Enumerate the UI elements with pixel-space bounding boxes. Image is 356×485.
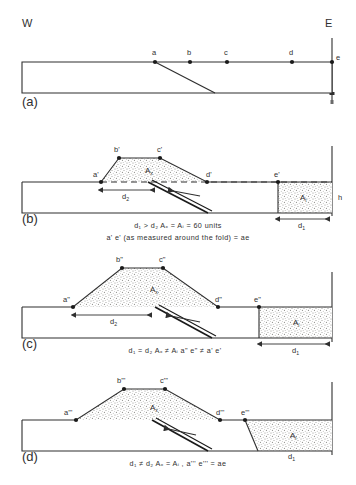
panel-tag-b: (b) (22, 211, 38, 226)
point-b-prime (117, 156, 121, 160)
point-d-prime (205, 180, 209, 184)
layer-block-a (22, 62, 332, 93)
point-label-c-tprime: c''' (160, 376, 169, 385)
point-a-tprime (74, 418, 78, 422)
point-c-tprime (163, 387, 167, 391)
point-b (188, 60, 192, 64)
point-label-d: d (289, 48, 293, 57)
point-label-a-tprime: a''' (64, 408, 73, 417)
point-d-dprime (216, 305, 220, 309)
caption-c-line1: d₁ = d₂ Aₓ ≠ Aᵢ a" e" ≠ a' e' (129, 346, 222, 355)
point-a-prime (99, 180, 103, 184)
point-c-dprime (161, 266, 165, 270)
point-label-d-prime: d' (206, 170, 212, 179)
point-b-tprime (122, 387, 126, 391)
point-c (225, 60, 229, 64)
compass-east-label: E (325, 17, 332, 29)
point-e (330, 60, 334, 64)
panel-tag-c: (c) (22, 336, 37, 351)
point-label-d-tprime: d''' (216, 408, 225, 417)
dimension-label-h-b: h (338, 193, 342, 202)
panel-tag-d: (d) (22, 449, 38, 464)
geologic-cross-section-figure: W E a b c d e (a) (0, 0, 356, 485)
point-label-d-dprime: d" (215, 295, 222, 304)
point-label-c-dprime: c" (159, 255, 166, 264)
point-d-tprime (218, 418, 222, 422)
point-label-c-prime: c' (157, 145, 163, 154)
panel-tag-a: (a) (22, 94, 38, 109)
point-d (290, 60, 294, 64)
point-c-prime (158, 156, 162, 160)
point-e-dprime (257, 305, 261, 309)
point-label-e-dprime: e" (254, 295, 261, 304)
point-label-a-dprime: a" (63, 295, 70, 304)
point-label-e-prime: e' (274, 170, 280, 179)
caption-b-line2: a' e' (as measured around the fold) = ae (106, 233, 249, 242)
point-label-e-tprime: e''' (241, 408, 250, 417)
point-label-b: b (187, 48, 191, 57)
figure-svg: W E a b c d e (a) (0, 0, 356, 485)
point-label-b-prime: b' (114, 145, 120, 154)
compass-west-label: W (22, 17, 33, 29)
point-label-a-prime: a' (93, 170, 99, 179)
point-a-dprime (71, 305, 75, 309)
point-label-b-dprime: b" (116, 255, 123, 264)
point-e-tprime (243, 418, 247, 422)
point-label-c: c (224, 48, 228, 57)
displaced-area-d (245, 420, 332, 451)
point-e-prime (276, 180, 280, 184)
caption-d-line1: d₁ ≠ d₂ Aₓ = Aᵢ , a''' e''' = ae (130, 459, 227, 468)
point-label-e: e (336, 53, 340, 62)
caption-b-line1: d₁ > d₂ Aₓ = Aᵢ = 60 units (134, 221, 222, 230)
point-a (153, 60, 157, 64)
point-b-dprime (120, 266, 124, 270)
point-label-b-tprime: b''' (117, 376, 126, 385)
